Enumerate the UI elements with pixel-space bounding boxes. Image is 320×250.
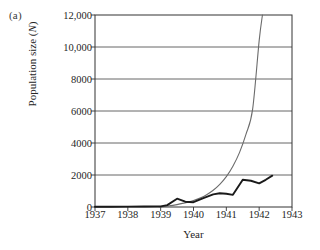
- y-tick-marks: [91, 15, 95, 207]
- gridlines: [95, 47, 292, 175]
- series-observed-population: [95, 176, 272, 207]
- x-tick-label: 1943: [272, 209, 312, 220]
- figure-panel: (a) Population size (N) Year 02000400060…: [0, 0, 320, 250]
